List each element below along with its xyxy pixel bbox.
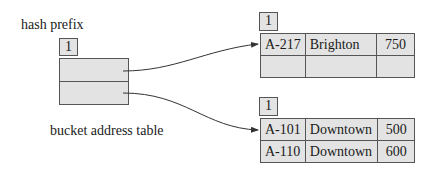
branch-cell <box>305 56 376 78</box>
bucket-address-table <box>59 58 129 105</box>
balance-cell <box>377 56 415 78</box>
balance-cell: 750 <box>377 34 415 56</box>
account-cell <box>261 56 306 78</box>
bucket-1: A-101 Downtown 500 A-110 Downtown 600 <box>260 118 415 163</box>
bucket-address-entry-1 <box>60 82 128 104</box>
balance-cell: 600 <box>378 141 415 163</box>
account-cell: A-110 <box>261 141 306 163</box>
bucket-0-local-depth: 1 <box>259 12 278 31</box>
account-cell: A-217 <box>261 34 306 56</box>
balance-cell: 500 <box>378 119 415 141</box>
bucket-address-table-label: bucket address table <box>50 124 164 138</box>
bucket-0-row-0: A-217 Brighton 750 <box>261 34 415 56</box>
pointer-arrow-0 <box>123 44 258 71</box>
bucket-address-entry-0 <box>60 59 128 82</box>
branch-cell: Downtown <box>305 119 378 141</box>
bucket-1-row-0: A-101 Downtown 500 <box>261 119 415 141</box>
account-cell: A-101 <box>261 119 306 141</box>
hash-prefix-value-box: 1 <box>59 38 78 56</box>
bucket-1-row-1: A-110 Downtown 600 <box>261 141 415 163</box>
branch-cell: Brighton <box>305 34 376 56</box>
hash-prefix-label: hash prefix <box>21 18 84 32</box>
branch-cell: Downtown <box>305 141 378 163</box>
bucket-0: A-217 Brighton 750 <box>260 33 415 78</box>
bucket-1-local-depth: 1 <box>259 97 278 116</box>
bucket-0-row-1 <box>261 56 415 78</box>
